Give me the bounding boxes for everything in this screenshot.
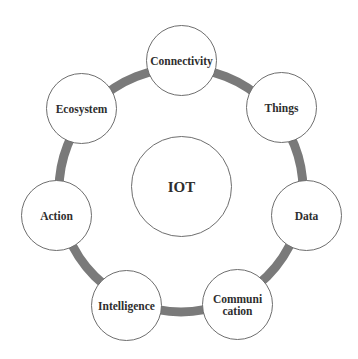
center-label: IOT <box>168 181 196 193</box>
node-data: Data <box>271 180 342 251</box>
node-intelligence: Intelligence <box>91 270 162 341</box>
node-label: Action <box>40 210 73 222</box>
node-action: Action <box>21 180 92 251</box>
node-label: Communi cation <box>213 293 262 317</box>
node-label: Things <box>265 102 299 114</box>
center-node-iot: IOT <box>131 136 232 237</box>
node-label: Connectivity <box>150 55 213 67</box>
node-things: Things <box>246 72 317 143</box>
node-label: Intelligence <box>98 300 155 312</box>
node-label: Ecosystem <box>56 103 108 115</box>
node-label: Data <box>295 210 319 222</box>
node-connectivity: Connectivity <box>146 25 217 96</box>
node-communication: Communi cation <box>202 269 273 340</box>
node-ecosystem: Ecosystem <box>46 73 117 144</box>
